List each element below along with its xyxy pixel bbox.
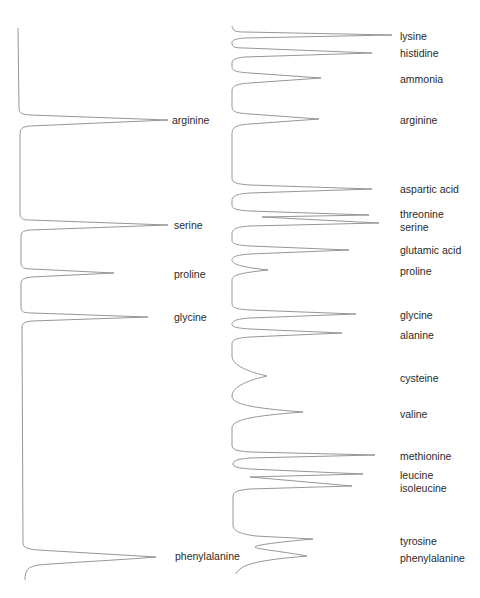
right-peak-label-arginine: arginine: [400, 115, 437, 126]
right-peak-label-tyrosine: tyrosine: [400, 536, 437, 547]
right-peak-label-aspartic-acid: aspartic acid: [400, 184, 459, 195]
left-trace: [18, 28, 168, 580]
chromatogram-traces: [0, 0, 480, 598]
right-peak-label-alanine: alanine: [400, 330, 434, 341]
right-peak-label-proline: proline: [400, 266, 432, 277]
left-peak-label-arginine: arginine: [172, 115, 209, 126]
right-peak-label-methionine: methionine: [400, 451, 451, 462]
clipped-caption: [230, 592, 480, 598]
left-peak-label-glycine: glycine: [174, 312, 207, 323]
right-peak-label-cysteine: cysteine: [400, 373, 439, 384]
right-peak-label-glutamic-acid: glutamic acid: [400, 245, 461, 256]
right-peak-label-ammonia: ammonia: [400, 74, 443, 85]
left-peak-label-proline: proline: [174, 269, 206, 280]
right-peak-label-glycine: glycine: [400, 310, 433, 321]
right-peak-label-histidine: histidine: [400, 48, 439, 59]
right-peak-label-valine: valine: [400, 409, 427, 420]
left-peak-label-serine: serine: [174, 220, 203, 231]
chromatogram-figure: arginine serine proline glycine phenylal…: [0, 0, 480, 598]
right-peak-label-lysine: lysine: [400, 31, 427, 42]
right-peak-label-phenylalanine: phenylalanine: [400, 553, 465, 564]
left-peak-label-phenylalanine: phenylalanine: [175, 551, 240, 562]
right-peak-label-serine: serine: [400, 222, 429, 233]
right-peak-label-threonine: threonine: [400, 209, 444, 220]
right-peak-label-leucine: leucine: [400, 470, 433, 481]
right-trace: [232, 26, 392, 574]
right-peak-label-isoleucine: isoleucine: [400, 483, 447, 494]
